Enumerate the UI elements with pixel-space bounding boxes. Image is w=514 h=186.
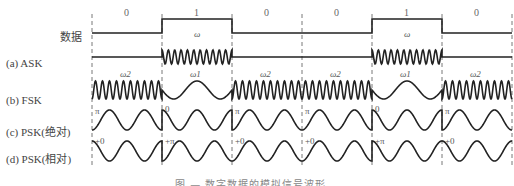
fsk-signal-path	[92, 81, 512, 99]
figure-caption: 图 — 数字数据的模拟信号波形	[175, 176, 326, 186]
waveform-diagram	[0, 0, 514, 186]
bit-dividers	[92, 14, 512, 166]
